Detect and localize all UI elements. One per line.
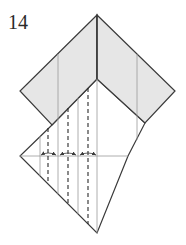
origami-diagram <box>0 0 186 245</box>
